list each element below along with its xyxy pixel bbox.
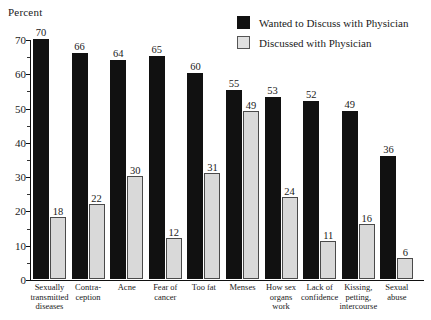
x-axis-line	[30, 280, 424, 281]
category-label-line: cancer	[143, 293, 188, 303]
y-minor-tick-5	[27, 263, 30, 264]
y-tick-label-60: 60	[4, 69, 26, 80]
cut-off-title	[0, 0, 431, 2]
bar: 24	[282, 197, 298, 279]
bar: 18	[50, 217, 66, 279]
legend-label-wanted: Wanted to Discuss with Physician	[259, 17, 408, 29]
bar: 64	[110, 60, 126, 279]
y-tick-60	[26, 74, 31, 75]
bar-value-label: 36	[383, 144, 394, 155]
bar-value-label: 53	[267, 85, 278, 96]
y-minor-tick-65	[27, 57, 30, 58]
bar: 30	[127, 176, 143, 279]
category-label-line: ception	[66, 293, 111, 303]
y-tick-label-20: 20	[4, 206, 26, 217]
y-tick-50	[26, 109, 31, 110]
y-tick-label-40: 40	[4, 138, 26, 149]
bar: 6	[397, 258, 413, 279]
chart-legend: Wanted to Discuss with Physician Discuss…	[237, 16, 408, 56]
bar: 70	[33, 39, 49, 279]
bar-value-label: 16	[362, 213, 373, 224]
bar-value-label: 30	[130, 165, 141, 176]
bar-group: 5324	[265, 39, 298, 280]
y-tick-0	[26, 280, 31, 281]
y-tick-40	[26, 143, 31, 144]
y-tick-label-10: 10	[4, 241, 26, 252]
bar-group: 7018	[33, 39, 66, 280]
y-tick-label-70: 70	[4, 35, 26, 46]
y-minor-tick-55	[27, 91, 30, 92]
bar-value-label: 49	[345, 99, 356, 110]
legend-item-wanted: Wanted to Discuss with Physician	[237, 16, 408, 29]
bar-group: 6622	[72, 39, 105, 280]
bar-value-label: 6	[403, 247, 408, 258]
light-square-icon	[237, 36, 250, 49]
y-tick-70	[26, 40, 31, 41]
x-axis-category-labels: SexuallytransmitteddiseasesContra-ceptio…	[30, 283, 424, 320]
category-label-line: intercourse	[336, 302, 381, 312]
bar-value-label: 49	[246, 100, 257, 111]
bar: 49	[243, 111, 259, 279]
y-minor-tick-35	[27, 160, 30, 161]
bar: 53	[265, 97, 281, 279]
y-minor-tick-25	[27, 194, 30, 195]
bar-value-label: 65	[152, 44, 163, 55]
y-axis-tick-labels: 010203040506070	[0, 40, 26, 281]
bar: 52	[303, 101, 319, 279]
bar: 11	[320, 241, 336, 279]
bar-group: 6512	[149, 39, 182, 280]
y-tick-label-50: 50	[4, 104, 26, 115]
bar-group: 6430	[110, 39, 143, 280]
category-label-line: work	[259, 302, 304, 312]
bar-group: 6031	[187, 39, 220, 280]
bar: 12	[166, 238, 182, 279]
bar: 49	[342, 111, 358, 279]
bar-value-label: 55	[229, 78, 240, 89]
bar: 31	[204, 173, 220, 279]
y-tick-30	[26, 177, 31, 178]
bar-value-label: 22	[91, 193, 102, 204]
y-minor-tick-45	[27, 126, 30, 127]
bar-group: 4916	[342, 39, 375, 280]
dark-square-icon	[237, 16, 250, 29]
y-minor-tick-15	[27, 229, 30, 230]
bar: 55	[226, 90, 242, 279]
y-tick-10	[26, 246, 31, 247]
bar-value-label: 66	[74, 41, 85, 52]
bar: 16	[359, 224, 375, 279]
category-label: Sexualabuse	[374, 283, 419, 302]
bar-group: 366	[380, 39, 413, 280]
bar: 60	[187, 73, 203, 279]
bar-group: 5549	[226, 39, 259, 280]
y-tick-20	[26, 211, 31, 212]
category-label-line: abuse	[374, 293, 419, 303]
plot-area: 701866226430651260315549532452114916366	[30, 40, 424, 280]
bar: 65	[149, 56, 165, 279]
bar: 36	[380, 156, 396, 279]
bar-group: 5211	[303, 39, 336, 280]
bar-value-label: 11	[323, 230, 333, 241]
bar-value-label: 64	[113, 48, 124, 59]
category-label-line: diseases	[27, 302, 72, 312]
y-axis-unit-label: Percent	[8, 6, 42, 18]
legend-label-discussed: Discussed with Physician	[259, 37, 371, 49]
bar-value-label: 70	[36, 27, 47, 38]
bar-value-label: 60	[190, 61, 201, 72]
y-tick-label-30: 30	[4, 172, 26, 183]
legend-item-discussed: Discussed with Physician	[237, 36, 408, 49]
bar-value-label: 52	[306, 89, 317, 100]
y-tick-label-0: 0	[4, 275, 26, 286]
bar: 66	[72, 53, 88, 279]
bar-value-label: 24	[284, 186, 295, 197]
bar: 22	[89, 204, 105, 279]
bar-value-label: 12	[169, 227, 180, 238]
bar-value-label: 31	[207, 162, 218, 173]
bar-value-label: 18	[53, 206, 64, 217]
